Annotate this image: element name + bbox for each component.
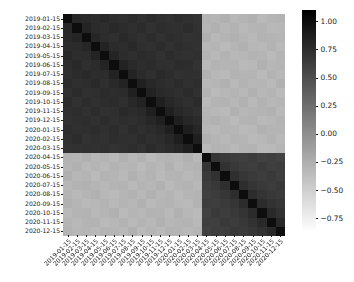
y-tick-mark — [61, 222, 63, 223]
y-tick-mark — [61, 28, 63, 29]
y-tick-mark — [61, 93, 63, 94]
y-tick-label: 2019-11-15 — [0, 108, 60, 114]
y-tick-mark — [61, 102, 63, 103]
x-tick-mark — [188, 235, 189, 237]
figure-canvas: 2019-01-152019-02-152019-03-152019-04-15… — [0, 0, 354, 282]
colorbar-tick-mark — [316, 162, 318, 163]
y-tick-mark — [61, 37, 63, 38]
y-tick-mark — [61, 56, 63, 57]
y-tick-label: 2020-01-15 — [0, 127, 60, 133]
x-tick-mark — [77, 235, 78, 237]
x-tick-mark — [169, 235, 170, 237]
y-tick-label: 2020-08-15 — [0, 191, 60, 197]
x-tick-mark — [132, 235, 133, 237]
colorbar-tick-mark — [316, 190, 318, 191]
y-tick-mark — [61, 213, 63, 214]
x-tick-mark — [206, 235, 207, 237]
x-tick-mark — [225, 235, 226, 237]
y-tick-label: 2020-02-15 — [0, 136, 60, 142]
x-tick-mark — [216, 235, 217, 237]
colorbar-tick-label: 1.00 — [321, 18, 337, 25]
y-tick-label: 2020-06-15 — [0, 173, 60, 179]
colorbar-tick-label: 0.50 — [321, 74, 337, 81]
y-tick-label: 2019-03-15 — [0, 34, 60, 40]
y-tick-label: 2019-10-15 — [0, 99, 60, 105]
colorbar-tick-label: 0.25 — [321, 102, 337, 109]
y-tick-mark — [61, 130, 63, 131]
y-tick-label: 2019-08-15 — [0, 80, 60, 86]
y-tick-label: 2019-01-15 — [0, 16, 60, 22]
colorbar-tick-label: 0.00 — [321, 130, 337, 137]
x-tick-mark — [95, 235, 96, 237]
y-tick-mark — [61, 157, 63, 158]
y-tick-mark — [61, 167, 63, 168]
y-tick-mark — [61, 194, 63, 195]
y-tick-label: 2019-12-15 — [0, 117, 60, 123]
colorbar-gradient — [302, 10, 316, 232]
x-tick-mark — [234, 235, 235, 237]
y-tick-label: 2020-10-15 — [0, 210, 60, 216]
y-tick-mark — [61, 231, 63, 232]
x-tick-mark — [105, 235, 106, 237]
y-tick-label: 2020-09-15 — [0, 201, 60, 207]
y-tick-label: 2020-03-15 — [0, 145, 60, 151]
colorbar-tick-label: −0.50 — [321, 187, 344, 194]
x-tick-mark — [243, 235, 244, 237]
y-tick-label: 2019-05-15 — [0, 53, 60, 59]
colorbar-tick-mark — [316, 78, 318, 79]
colorbar-tick-mark — [316, 49, 318, 50]
colorbar-tick-label: −0.25 — [321, 158, 344, 165]
x-tick-mark — [271, 235, 272, 237]
correlation-heatmap[interactable] — [63, 14, 285, 236]
x-tick-mark — [160, 235, 161, 237]
y-tick-label: 2019-02-15 — [0, 25, 60, 31]
x-tick-mark — [253, 235, 254, 237]
x-tick-mark — [197, 235, 198, 237]
y-tick-label: 2019-06-15 — [0, 62, 60, 68]
y-tick-mark — [61, 148, 63, 149]
x-tick-mark — [123, 235, 124, 237]
x-tick-mark — [142, 235, 143, 237]
y-tick-mark — [61, 176, 63, 177]
y-tick-mark — [61, 74, 63, 75]
y-tick-mark — [61, 204, 63, 205]
y-tick-label: 2020-11-15 — [0, 219, 60, 225]
x-tick-mark — [280, 235, 281, 237]
y-tick-mark — [61, 46, 63, 47]
colorbar: 1.000.750.500.250.00−0.25−0.50−0.75 — [302, 10, 316, 232]
x-tick-mark — [179, 235, 180, 237]
colorbar-tick-mark — [316, 21, 318, 22]
heatmap-plot-area[interactable] — [63, 14, 285, 236]
y-tick-label: 2019-04-15 — [0, 43, 60, 49]
y-tick-mark — [61, 185, 63, 186]
y-tick-mark — [61, 139, 63, 140]
y-tick-label: 2020-04-15 — [0, 154, 60, 160]
x-tick-mark — [86, 235, 87, 237]
colorbar-tick-label: −0.75 — [321, 215, 344, 222]
x-tick-mark — [262, 235, 263, 237]
y-tick-label: 2019-07-15 — [0, 71, 60, 77]
colorbar-tick-mark — [316, 218, 318, 219]
y-tick-mark — [61, 83, 63, 84]
y-tick-mark — [61, 111, 63, 112]
y-tick-label: 2020-12-15 — [0, 228, 60, 234]
y-tick-label: 2020-05-15 — [0, 164, 60, 170]
y-tick-mark — [61, 19, 63, 20]
x-tick-mark — [114, 235, 115, 237]
y-tick-mark — [61, 120, 63, 121]
x-tick-mark — [151, 235, 152, 237]
colorbar-tick-mark — [316, 134, 318, 135]
y-axis-tick-labels: 2019-01-152019-02-152019-03-152019-04-15… — [0, 14, 60, 236]
x-tick-mark — [68, 235, 69, 237]
colorbar-tick-label: 0.75 — [321, 46, 337, 53]
y-tick-mark — [61, 65, 63, 66]
y-tick-label: 2020-07-15 — [0, 182, 60, 188]
x-axis-tick-labels: 2019-01-152019-02-152019-03-152019-04-15… — [63, 236, 303, 282]
colorbar-tick-mark — [316, 106, 318, 107]
y-tick-label: 2019-09-15 — [0, 90, 60, 96]
